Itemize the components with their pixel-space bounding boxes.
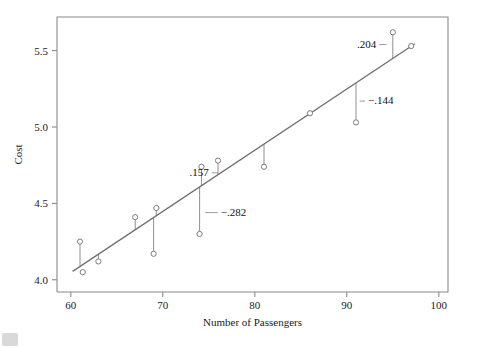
data-point-marker: [154, 205, 159, 210]
residual-value-label: −.144: [368, 94, 394, 106]
data-point-marker: [261, 164, 266, 169]
data-point-marker: [96, 259, 101, 264]
data-points: [77, 30, 413, 275]
residual-segments: [80, 32, 411, 266]
y-tick-label: 4.0: [34, 274, 48, 286]
data-point-marker: [197, 231, 202, 236]
y-axis-title: Cost: [12, 144, 24, 164]
data-point-marker: [390, 30, 395, 35]
data-point-marker: [77, 239, 82, 244]
residual-value-label: −.282: [221, 206, 246, 218]
x-tick-label: 90: [341, 299, 353, 311]
plot-border: [57, 17, 448, 292]
data-point-marker: [133, 215, 138, 220]
least-squares-line: [73, 44, 415, 272]
x-axis-ticks: 60708090100: [65, 292, 447, 311]
data-point-marker: [215, 158, 220, 163]
x-tick-label: 60: [65, 299, 77, 311]
x-tick-label: 100: [431, 299, 448, 311]
data-point-marker: [409, 43, 414, 48]
data-point-marker: [80, 270, 85, 275]
y-tick-label: 4.5: [34, 197, 48, 209]
corner-watermark: [2, 333, 18, 346]
residual-value-label: .204: [357, 38, 377, 50]
x-tick-label: 80: [249, 299, 261, 311]
y-tick-label: 5.5: [34, 45, 48, 57]
residual-value-label: .157: [190, 166, 210, 178]
plot-frame: [57, 17, 448, 292]
y-tick-label: 5.0: [34, 121, 48, 133]
residual-annotations: .157−.282.204−.144: [190, 38, 394, 218]
data-point-marker: [307, 111, 312, 116]
y-axis-ticks: 4.04.55.05.5: [34, 45, 57, 286]
x-axis-title: Number of Passengers: [203, 316, 302, 328]
plot-canvas: 60708090100 4.04.55.05.5 .157−.282.204−.…: [0, 0, 490, 348]
data-point-marker: [353, 120, 358, 125]
data-point-marker: [151, 251, 156, 256]
regression-line: [73, 44, 415, 272]
x-tick-label: 70: [157, 299, 169, 311]
residual-scatter-plot: 60708090100 4.04.55.05.5 .157−.282.204−.…: [0, 0, 490, 348]
